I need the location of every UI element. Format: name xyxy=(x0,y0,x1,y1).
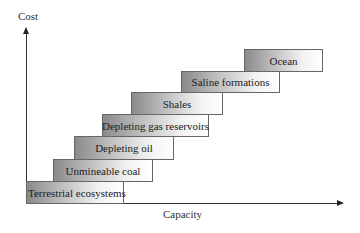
x-axis-arrow-icon xyxy=(337,200,344,206)
step-label: Ocean xyxy=(269,55,297,67)
y-axis-arrow-icon xyxy=(23,27,29,34)
step-ocean: Ocean xyxy=(244,49,323,72)
step-shales: Shales xyxy=(131,92,223,115)
x-axis-label: Capacity xyxy=(163,208,202,220)
step-label: Terrestrial ecosystems xyxy=(28,187,126,199)
step-label: Shales xyxy=(163,98,192,110)
step-unmineable-coal: Unmineable coal xyxy=(53,159,153,182)
step-terrestrial-ecosystems: Terrestrial ecosystems xyxy=(26,181,124,204)
step-depleting-gas-reservoirs: Depleting gas reservoirs xyxy=(102,114,209,137)
y-axis-label: Cost xyxy=(18,10,38,22)
step-label: Unmineable coal xyxy=(66,165,141,177)
step-label: Depleting gas reservoirs xyxy=(102,120,209,132)
y-axis-line xyxy=(26,32,27,203)
step-saline-formations: Saline formations xyxy=(181,71,280,93)
step-depleting-oil: Depleting oil xyxy=(74,136,174,160)
step-label: Saline formations xyxy=(192,76,270,88)
step-label: Depleting oil xyxy=(95,142,153,154)
